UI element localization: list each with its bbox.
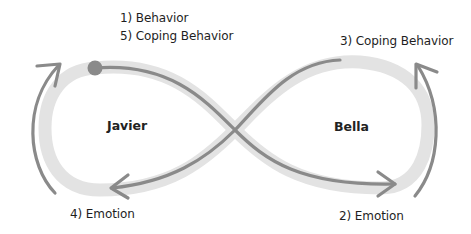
step-1-label: 1) Behavior	[120, 11, 188, 25]
participant-bella: Bella	[334, 119, 369, 134]
participant-javier: Javier	[107, 118, 147, 133]
step-3-label: 3) Coping Behavior	[340, 34, 453, 48]
step-5-label: 5) Coping Behavior	[120, 29, 233, 43]
figure-eight-track	[45, 62, 428, 190]
step-4-label: 4) Emotion	[70, 207, 135, 221]
step-2-label: 2) Emotion	[339, 209, 404, 223]
infinity-loop-diagram: 1) Behavior 5) Coping Behavior 3) Coping…	[0, 0, 471, 234]
start-dot-icon	[88, 61, 103, 76]
